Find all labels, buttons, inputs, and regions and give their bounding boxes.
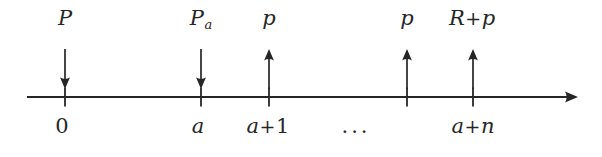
- plus-sign-icon: +: [260, 115, 276, 137]
- top-label-P-base: P: [58, 6, 72, 30]
- ellipsis-icon: ...: [341, 114, 370, 138]
- bottom-label-zero: 0: [55, 116, 68, 137]
- bottom-label-a-plus-1-right: 1: [276, 114, 289, 138]
- bottom-label-zero-text: 0: [55, 114, 68, 138]
- bottom-label-a-text: a: [192, 114, 205, 138]
- top-label-Pa-base: P: [190, 6, 204, 30]
- top-label-Pa-subscript: a: [204, 17, 212, 32]
- bottom-label-a: a: [192, 116, 205, 137]
- top-label-p-second: p: [400, 8, 413, 29]
- bottom-label-a-plus-n-left: a: [452, 114, 465, 138]
- bottom-label-a-plus-1-left: a: [247, 114, 260, 138]
- top-label-p-second-base: p: [400, 6, 413, 30]
- number-line-figure: P Pa p p R+p: [0, 0, 602, 157]
- bottom-label-a-plus-n: a+n: [452, 116, 495, 137]
- bottom-label-a-plus-1: a+1: [247, 116, 290, 137]
- plus-sign-icon: +: [465, 115, 481, 137]
- top-label-R-plus-p-right: p: [482, 6, 495, 30]
- plus-sign-icon: +: [465, 7, 481, 29]
- top-label-Pa: Pa: [190, 8, 212, 31]
- top-label-R-plus-p: R+p: [449, 8, 495, 29]
- axis-arrowhead-icon: [565, 91, 578, 102]
- top-label-R-plus-p-left: R: [449, 6, 465, 30]
- number-line-axis: [0, 82, 602, 112]
- top-label-P: P: [58, 8, 72, 29]
- top-label-p-first: p: [262, 8, 275, 29]
- bottom-label-ellipsis: ...: [341, 116, 370, 137]
- bottom-label-a-plus-n-right: n: [481, 114, 495, 138]
- top-label-p-first-base: p: [262, 6, 275, 30]
